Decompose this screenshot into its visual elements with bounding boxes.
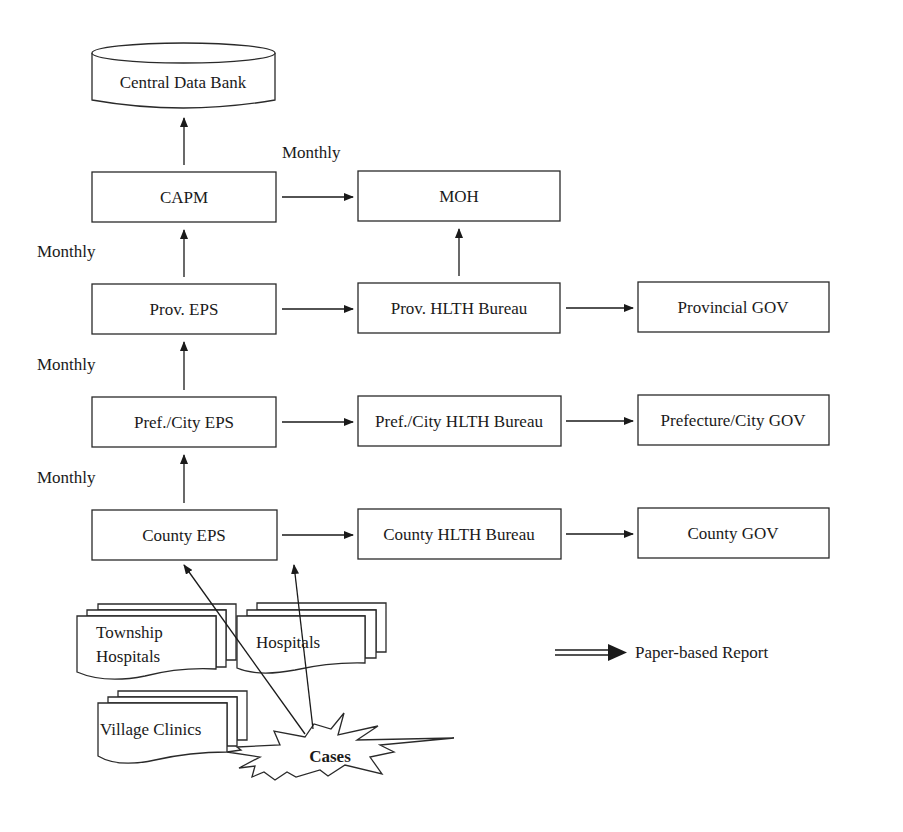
- monthly-label-prov-capm: Monthly: [37, 242, 96, 261]
- central-data-bank-label: Central Data Bank: [120, 73, 247, 92]
- cases-label: Cases: [309, 747, 351, 766]
- provincial-gov-label: Provincial GOV: [678, 298, 790, 317]
- prov-eps-node: Prov. EPS: [92, 284, 276, 334]
- hospitals-label: Hospitals: [256, 633, 320, 652]
- cases-node: Cases: [227, 713, 454, 780]
- prov-hlth-label: Prov. HLTH Bureau: [391, 299, 528, 318]
- village-clinics-node: Village Clinics: [98, 691, 247, 763]
- county-eps-node: County EPS: [92, 510, 277, 560]
- monthly-label-pref-prov: Monthly: [37, 355, 96, 374]
- prov-hlth-node: Prov. HLTH Bureau: [358, 283, 560, 333]
- pref-hlth-label: Pref./City HLTH Bureau: [375, 412, 543, 431]
- pref-gov-node: Prefecture/City GOV: [638, 395, 829, 445]
- pref-hlth-node: Pref./City HLTH Bureau: [358, 396, 561, 446]
- hospitals-node: Hospitals: [237, 603, 386, 673]
- capm-label: CAPM: [160, 188, 208, 207]
- township-label-line2: Hospitals: [96, 647, 160, 666]
- pref-eps-node: Pref./City EPS: [92, 397, 276, 447]
- county-hlth-node: County HLTH Bureau: [358, 509, 561, 559]
- county-gov-label: County GOV: [687, 524, 779, 543]
- county-hlth-label: County HLTH Bureau: [383, 525, 535, 544]
- legend-arrowhead-icon: [608, 644, 627, 661]
- pref-eps-label: Pref./City EPS: [134, 413, 234, 432]
- legend-label: Paper-based Report: [635, 643, 769, 662]
- legend: Paper-based Report: [555, 643, 769, 662]
- county-gov-node: County GOV: [638, 508, 829, 558]
- county-eps-label: County EPS: [142, 526, 226, 545]
- moh-label: MOH: [439, 187, 479, 206]
- township-label-line1: Township: [96, 623, 163, 642]
- pref-gov-label: Prefecture/City GOV: [661, 411, 807, 430]
- capm-node: CAPM: [92, 172, 276, 222]
- surveillance-flow-diagram: Central Data Bank CAPM MOH Prov. EPS Pro…: [0, 0, 903, 832]
- central-data-bank-node: Central Data Bank: [92, 43, 275, 108]
- prov-eps-label: Prov. EPS: [150, 300, 219, 319]
- monthly-label-county-pref: Monthly: [37, 468, 96, 487]
- moh-node: MOH: [358, 171, 560, 221]
- monthly-label-capm-moh: Monthly: [282, 143, 341, 162]
- township-hospitals-node: Township Hospitals: [77, 604, 236, 679]
- provincial-gov-node: Provincial GOV: [638, 282, 829, 332]
- village-clinics-label: Village Clinics: [100, 720, 201, 739]
